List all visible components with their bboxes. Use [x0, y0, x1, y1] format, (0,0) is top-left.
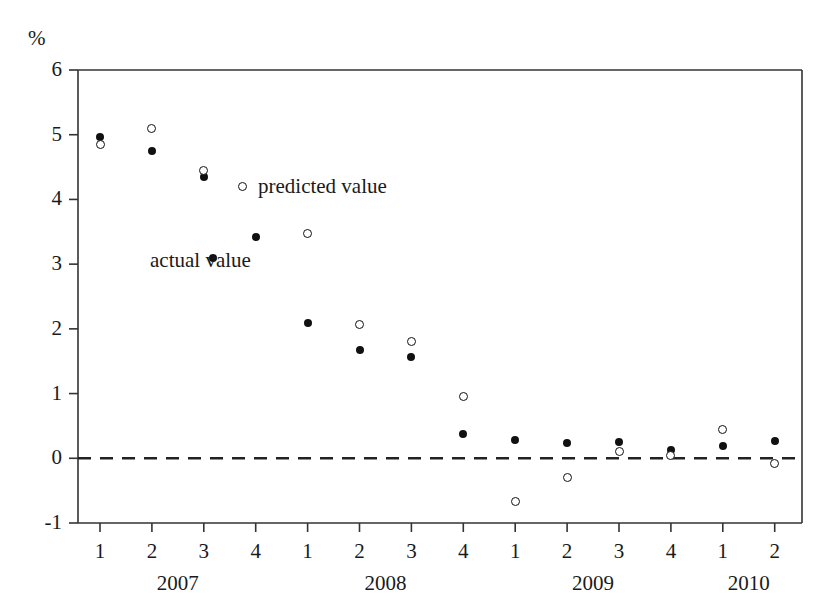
data-point-actual	[252, 233, 260, 241]
chart-axes	[0, 0, 835, 608]
x-tick-label: 4	[239, 541, 273, 562]
x-axis-year-label: 2010	[709, 573, 789, 594]
x-tick-label: 4	[446, 541, 480, 562]
x-tick-label: 3	[394, 541, 428, 562]
x-tick-label: 3	[602, 541, 636, 562]
x-tick-label: 2	[135, 541, 169, 562]
x-axis-year-label: 2008	[345, 573, 425, 594]
x-axis-year-label: 2009	[553, 573, 633, 594]
x-tick-label: 4	[654, 541, 688, 562]
legend-label-actual: actual value	[150, 250, 251, 271]
legend-label-predicted: predicted value	[258, 176, 387, 197]
data-point-predicted	[355, 320, 364, 329]
y-tick-label: 0	[28, 447, 62, 468]
x-tick-label: 2	[758, 541, 792, 562]
x-axis-year-label: 2007	[138, 573, 218, 594]
data-point-predicted	[511, 497, 520, 506]
data-point-actual	[356, 346, 364, 354]
y-tick-label: 4	[28, 188, 62, 209]
data-point-predicted	[718, 425, 727, 434]
y-tick-label: 3	[28, 253, 62, 274]
x-tick-label: 2	[550, 541, 584, 562]
data-point-actual	[563, 439, 571, 447]
data-point-predicted	[615, 447, 624, 456]
legend-marker-predicted	[238, 182, 247, 191]
y-axis-unit-label: %	[28, 26, 46, 51]
data-point-actual	[304, 319, 312, 327]
x-tick-label: 3	[187, 541, 221, 562]
x-tick-label: 1	[291, 541, 325, 562]
data-point-actual	[719, 442, 727, 450]
y-tick-label: 2	[28, 318, 62, 339]
data-point-predicted	[563, 473, 572, 482]
data-point-actual	[148, 147, 156, 155]
y-tick-label: -1	[28, 512, 62, 533]
x-tick-label: 2	[343, 541, 377, 562]
chart-container: % 6543210-1 12341234123412 2007200820092…	[0, 0, 835, 608]
data-point-predicted	[96, 140, 105, 149]
y-tick-label: 5	[28, 124, 62, 145]
y-tick-label: 1	[28, 383, 62, 404]
x-tick-label: 1	[83, 541, 117, 562]
x-tick-label: 1	[498, 541, 532, 562]
y-tick-label: 6	[28, 59, 62, 80]
x-tick-label: 1	[706, 541, 740, 562]
